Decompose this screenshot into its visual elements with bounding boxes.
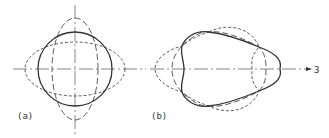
panel-b xyxy=(150,27,312,111)
arrowhead-icon xyxy=(306,67,312,71)
mode-shapes-diagram: (a) (b) 3 xyxy=(0,0,329,138)
axis-mode-label: 3 xyxy=(314,65,319,75)
panel-b-label: (b) xyxy=(151,111,167,121)
panel-a-label: (a) xyxy=(17,111,33,121)
